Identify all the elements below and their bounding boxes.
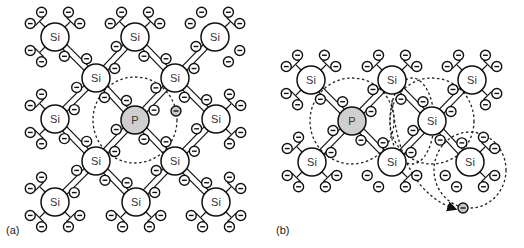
silicon-atom: Si (202, 105, 230, 133)
electron-icon (75, 19, 85, 29)
electron-icon (106, 210, 116, 220)
electron-icon (492, 62, 502, 72)
svg-text:Si: Si (130, 31, 140, 43)
svg-text:Si: Si (50, 196, 60, 208)
electron-icon (478, 132, 488, 142)
electron-icon (161, 54, 171, 64)
electron-icon (25, 101, 35, 111)
electron-icon (202, 95, 212, 105)
svg-text:P: P (348, 115, 355, 127)
electron-icon (418, 97, 428, 107)
electron-icon (63, 222, 73, 232)
electron-icon (37, 57, 47, 67)
electron-icon (100, 175, 110, 185)
svg-text:Si: Si (91, 155, 101, 167)
svg-text:Si: Si (306, 74, 316, 86)
electron-icon (374, 50, 384, 60)
electron-icon (111, 125, 121, 135)
electron-icon (139, 51, 149, 61)
electron-icon (412, 170, 422, 180)
electron-icon (328, 125, 338, 135)
silicon-atom: Si (121, 23, 149, 51)
svg-text:Si: Si (427, 115, 437, 127)
electron-icon (490, 144, 500, 154)
electron-icon (150, 187, 160, 197)
electron-icon (235, 19, 245, 29)
electron-icon (144, 222, 154, 232)
electron-icon (281, 88, 291, 98)
electron-icon (315, 94, 325, 104)
phosphorus-atom: P (121, 106, 149, 134)
electron-icon (435, 135, 445, 145)
electron-icon (458, 203, 468, 213)
electron-icon (320, 182, 330, 192)
svg-text:Si: Si (50, 31, 60, 43)
svg-text:Si: Si (211, 113, 221, 125)
electron-icon (440, 170, 450, 180)
electron-icon (25, 45, 35, 55)
electron-icon (294, 132, 304, 142)
svg-text:Si: Si (307, 156, 317, 168)
electron-icon (82, 136, 92, 146)
silicon-atom: Si (161, 64, 189, 92)
electron-icon (362, 62, 372, 72)
silicon-atom: Si (378, 148, 406, 176)
electron-icon (37, 172, 47, 182)
electron-icon (457, 138, 467, 148)
electron-icon (480, 50, 490, 60)
electron-icon (236, 184, 246, 194)
electron-icon (179, 92, 189, 102)
electron-icon (452, 182, 462, 192)
electron-icon (197, 7, 207, 17)
electron-icon (408, 125, 418, 135)
silicon-atom: Si (41, 23, 69, 51)
silicon-atom: Si (378, 66, 406, 94)
silicon-atom: Si (458, 66, 486, 94)
electron-icon (400, 50, 410, 60)
silicon-atom: Si (82, 64, 110, 92)
silicon-atom: Si (161, 147, 189, 175)
electron-icon (396, 94, 406, 104)
electron-icon (282, 144, 292, 154)
electron-icon (338, 97, 348, 107)
electron-icon (117, 7, 127, 17)
electron-icon (75, 210, 85, 220)
electron-icon (224, 222, 234, 232)
electron-icon (143, 7, 153, 17)
electron-icon (202, 178, 212, 188)
svg-text:Si: Si (50, 113, 60, 125)
electron-icon (25, 184, 35, 194)
electron-icon (282, 170, 292, 180)
electron-icon (406, 148, 416, 158)
svg-text:P: P (131, 114, 138, 126)
electron-icon (72, 165, 82, 175)
electron-icon (293, 50, 303, 60)
electron-icon (378, 138, 388, 148)
electron-icon (198, 222, 208, 232)
electron-icon (139, 134, 149, 144)
svg-text:Si: Si (170, 72, 180, 84)
electron-icon (72, 82, 82, 92)
electron-icon (236, 210, 246, 220)
panel-label-a: (a) (6, 224, 19, 236)
electron-icon (69, 188, 79, 198)
lattice-diagram: SiSiSiSiSiSiPSiSiSiSiSiSiSiSiSiPSiSiSiSi (0, 0, 524, 248)
electron-icon (235, 45, 245, 55)
electron-icon (151, 83, 161, 93)
electron-icon (236, 101, 246, 111)
electron-icon (446, 107, 456, 117)
electron-icon (155, 19, 165, 29)
electron-icon (111, 42, 121, 52)
electron-icon (156, 210, 166, 220)
electron-icon (105, 19, 115, 29)
electron-icon (412, 62, 422, 72)
electron-icon (368, 84, 378, 94)
electron-icon (224, 172, 234, 182)
silicon-atom: Si (82, 147, 110, 175)
electron-icon (294, 182, 304, 192)
silicon-atom: Si (202, 188, 230, 216)
electron-icon (161, 137, 171, 147)
electron-icon (362, 170, 372, 180)
electron-icon (110, 63, 120, 73)
electron-icon (25, 210, 35, 220)
